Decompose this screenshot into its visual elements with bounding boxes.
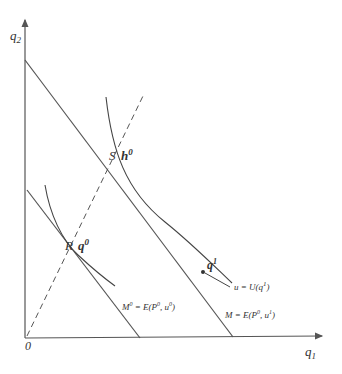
indifference-curve-lower <box>45 185 115 286</box>
budget-line-outer-label: M = E(P0, u1) <box>224 309 275 320</box>
budget-line-inner <box>27 190 140 338</box>
q1-pointer <box>205 273 230 287</box>
budget-line-inner-label: M0 = E(P0, u0) <box>121 301 175 312</box>
point-r-label: R <box>64 238 73 253</box>
point-q1-tag: q1 <box>207 257 217 272</box>
expansion-ray <box>27 96 143 336</box>
point-s-tag: h0 <box>121 147 133 163</box>
x-axis-label: q1 <box>305 344 316 361</box>
origin-label: 0 <box>25 339 31 353</box>
point-s-label: S <box>109 148 116 163</box>
hicksian-demand-diagram: q2 q1 0 S h0 R q0 q1 u = U(q1) M0 = E(P0… <box>0 0 342 374</box>
y-axis-label: q2 <box>10 28 22 45</box>
point-q1 <box>201 270 205 274</box>
indifference-curve-label: u = U(q1) <box>234 280 270 292</box>
x-axis <box>25 336 322 338</box>
point-r-tag: q0 <box>78 237 90 253</box>
indifference-curve-upper <box>106 97 232 283</box>
budget-line-outer <box>25 60 233 337</box>
